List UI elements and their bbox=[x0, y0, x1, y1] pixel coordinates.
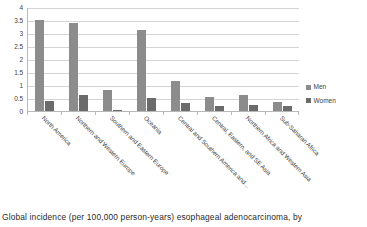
bar-group bbox=[197, 8, 231, 111]
legend-item-label: Men bbox=[314, 84, 327, 91]
x-axis-category-label: Northern Africa and Western Asia bbox=[244, 115, 312, 183]
bar-group bbox=[28, 8, 62, 111]
bar-group bbox=[96, 8, 130, 111]
y-axis-tick-label: 0.5 bbox=[14, 96, 23, 103]
bar-women bbox=[215, 106, 224, 111]
y-axis: 00.511.522.533.54 bbox=[0, 8, 26, 112]
bar-men bbox=[205, 97, 214, 111]
bar-men bbox=[239, 95, 248, 111]
x-axis-category-label: North America bbox=[40, 115, 72, 147]
bar-men bbox=[103, 90, 112, 111]
x-axis-category-label: Central, Eastern, and SE Asia bbox=[210, 115, 271, 176]
x-axis-labels: North AmericaNorthern and Western Europe… bbox=[27, 115, 327, 207]
bar-group bbox=[62, 8, 96, 111]
y-axis-tick-label: 0 bbox=[19, 109, 23, 116]
y-axis-tick-label: 3.5 bbox=[14, 18, 23, 25]
x-axis-category-label: Southern and Eastern Europe bbox=[108, 115, 169, 176]
bar-men bbox=[137, 30, 146, 111]
bar-men bbox=[69, 23, 78, 111]
x-axis-category-label: Central and Southern America and… bbox=[176, 115, 251, 190]
figure: 00.511.522.533.54 North AmericaNorthern … bbox=[0, 0, 367, 227]
bar-women bbox=[181, 103, 190, 111]
y-axis-tick-label: 3 bbox=[19, 31, 23, 38]
bar-women bbox=[283, 106, 292, 111]
y-axis-tick-label: 2 bbox=[19, 57, 23, 64]
y-axis-tick-label: 2.5 bbox=[14, 44, 23, 51]
bar-men bbox=[171, 81, 180, 111]
legend-swatch-icon bbox=[306, 85, 311, 90]
bar-women bbox=[147, 98, 156, 111]
legend-item-label: Women bbox=[314, 98, 336, 105]
legend: Men Women bbox=[306, 84, 364, 111]
y-axis-tick-label: 4 bbox=[19, 5, 23, 12]
bar-women bbox=[79, 95, 88, 111]
x-axis-category-label: Oceania bbox=[142, 115, 162, 135]
bar-women bbox=[249, 105, 258, 112]
bar-groups bbox=[28, 8, 299, 111]
bar-group bbox=[130, 8, 164, 111]
x-axis-category-label: Northern and Western Europe bbox=[74, 115, 136, 177]
bar-group bbox=[265, 8, 299, 111]
plot-area bbox=[27, 8, 299, 112]
figure-caption: Global incidence (per 100,000 person-yea… bbox=[2, 212, 365, 223]
bar-chart: 00.511.522.533.54 North AmericaNorthern … bbox=[0, 0, 367, 205]
legend-swatch-icon bbox=[306, 98, 311, 103]
legend-item-women: Women bbox=[306, 98, 364, 105]
bar-women bbox=[45, 101, 54, 111]
bar-women bbox=[113, 110, 122, 111]
bar-group bbox=[231, 8, 265, 111]
bar-men bbox=[35, 20, 44, 111]
legend-item-men: Men bbox=[306, 84, 364, 91]
y-axis-tick-label: 1 bbox=[19, 83, 23, 90]
bar-group bbox=[164, 8, 198, 111]
y-axis-tick-label: 1.5 bbox=[14, 70, 23, 77]
bar-men bbox=[273, 102, 282, 111]
